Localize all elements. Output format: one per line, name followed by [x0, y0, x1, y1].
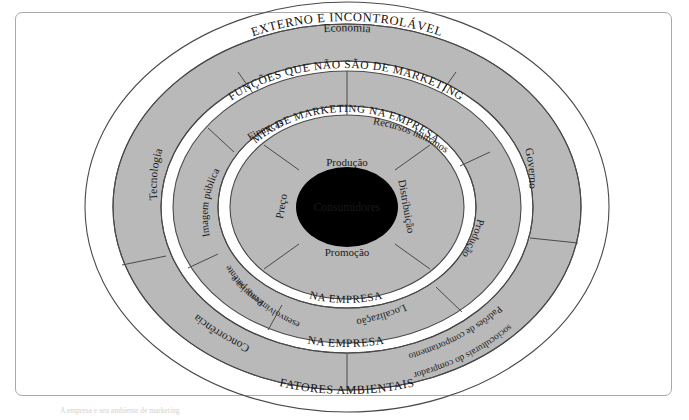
- concentric-ring-diagram: Consumidores EXTERNO E INCONTROLÁVEL FAT…: [0, 0, 689, 420]
- diagram-svg-wrapper: Consumidores EXTERNO E INCONTROLÁVEL FAT…: [0, 0, 689, 420]
- core-label: Consumidores: [314, 201, 381, 213]
- figure-canvas: Consumidores EXTERNO E INCONTROLÁVEL FAT…: [0, 0, 689, 420]
- figure-caption: A empresa e seu ambiente de marketing: [60, 406, 480, 420]
- ring1-segment-promocao: Promoção: [325, 246, 370, 258]
- ring1-segment-producao: Produção: [326, 156, 368, 168]
